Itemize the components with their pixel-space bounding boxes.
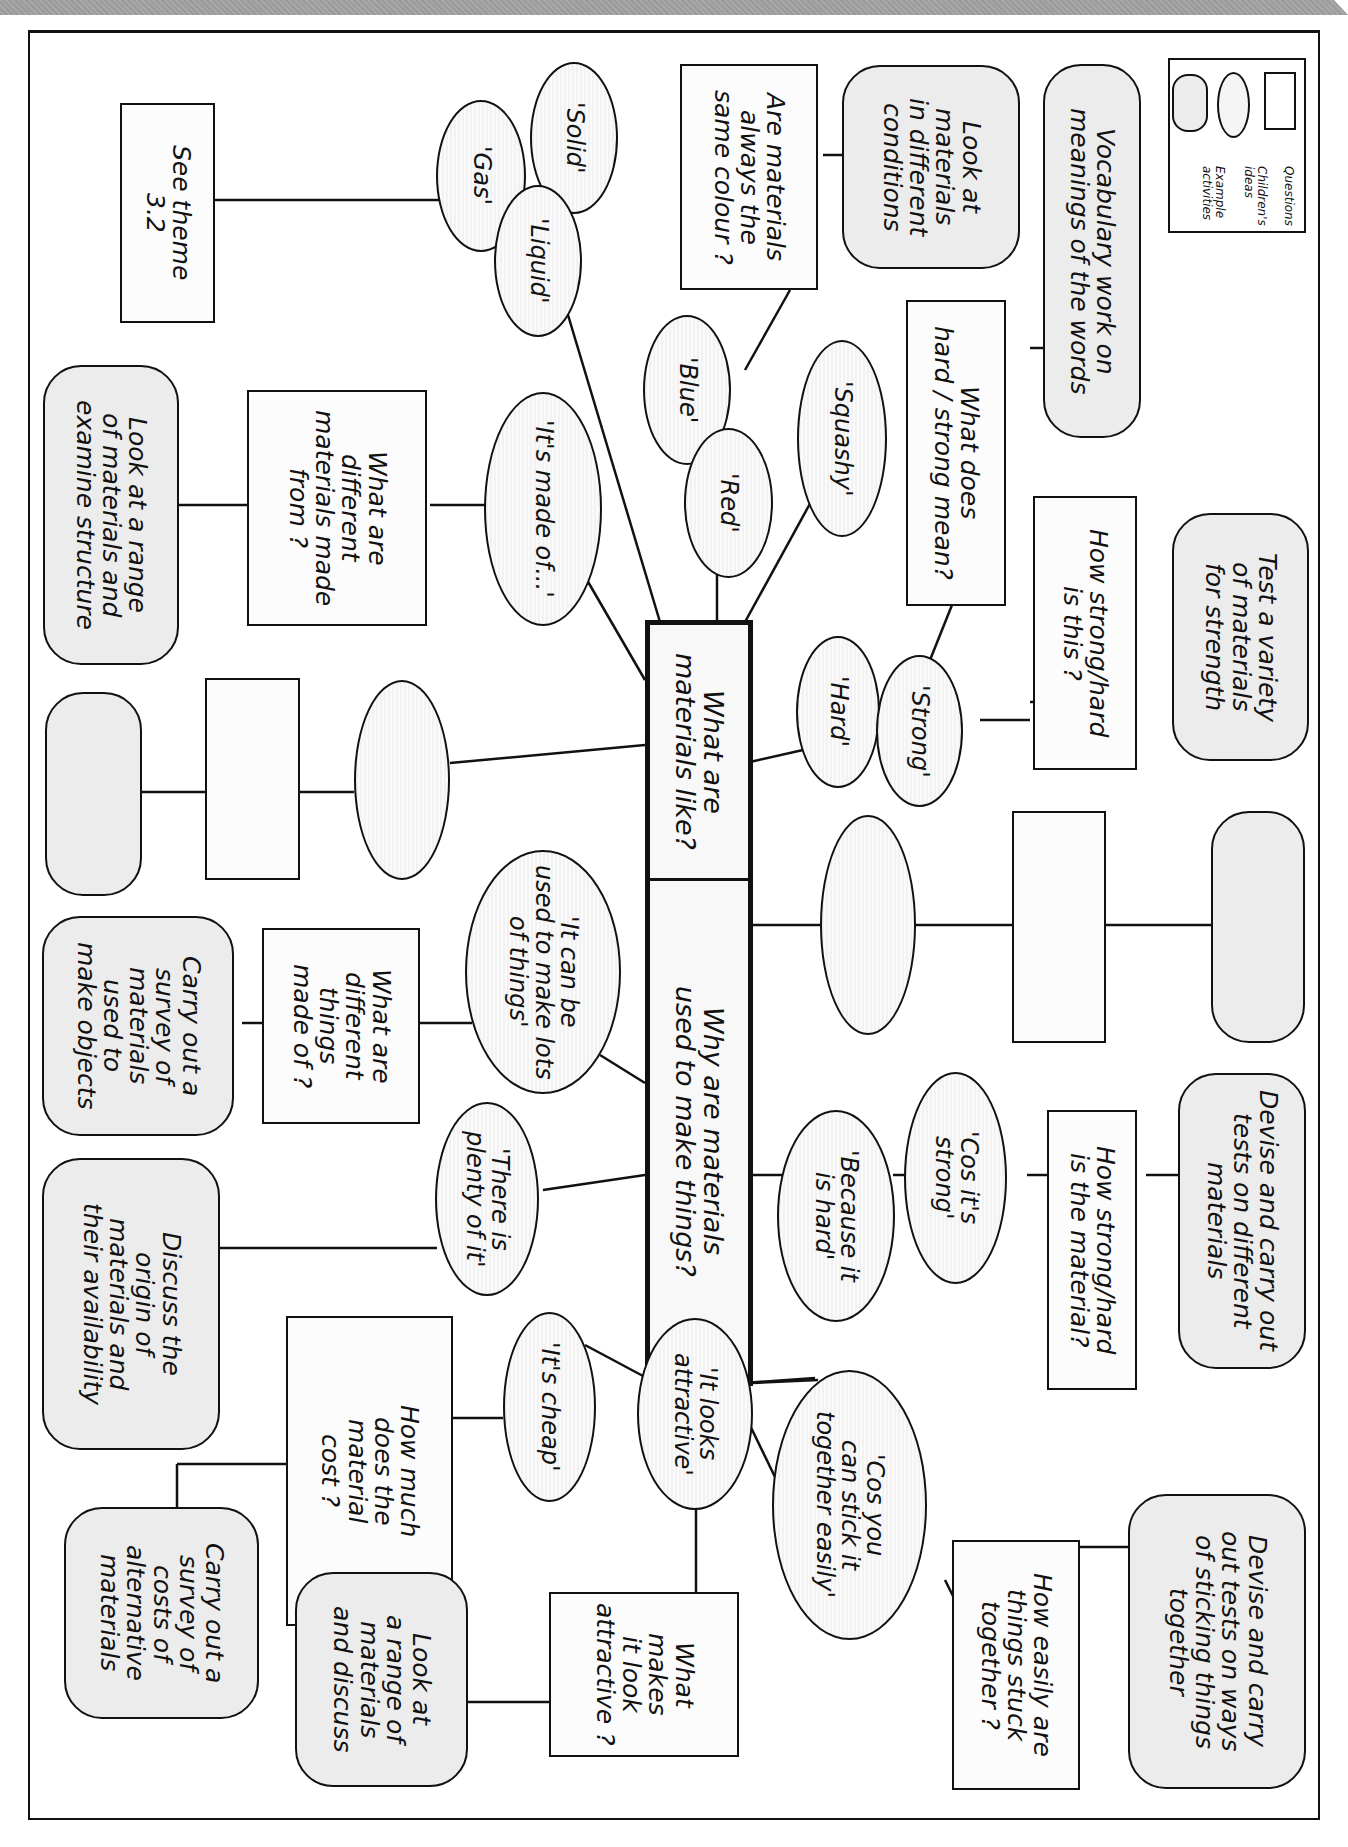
question-label: How much does the material cost ?: [317, 1405, 422, 1537]
legend-activity-label: Example activities: [1198, 166, 1226, 231]
idea-label: 'There is plenty of it': [462, 1131, 512, 1268]
question-materials-made-from: What are different materials made from ?: [247, 390, 427, 626]
activity-tests-materials: Devise and carry out tests on different …: [1178, 1073, 1306, 1369]
legend-activity-swatch: [1172, 74, 1208, 132]
idea-squashy: 'Squashy': [797, 340, 887, 537]
idea-label: 'Strong': [907, 685, 932, 778]
activity-blank-left: [45, 692, 142, 896]
idea-label: 'Solid': [561, 102, 586, 174]
legend-question-swatch: [1264, 72, 1296, 130]
activity-label: Vocabulary work on meanings of the words: [1066, 108, 1119, 394]
activity-label: Devise and carry out tests on different …: [1203, 1090, 1282, 1351]
idea-blank-right: [820, 815, 916, 1035]
activity-label: Look at a range of materials and examine…: [72, 400, 151, 630]
idea-attractive: 'It looks attractive': [637, 1318, 753, 1510]
idea-label: 'Liquid': [525, 218, 550, 304]
question-label: See theme 3.2: [141, 145, 194, 280]
question-label: How strong/hard is this ?: [1059, 529, 1112, 737]
idea-liquid: 'Liquid': [494, 185, 582, 337]
central-node-label: What are materials like?: [671, 653, 728, 850]
question-label: What are different things made of ?: [289, 964, 394, 1088]
question-hard-strong-mean: What does hard / strong mean?: [906, 300, 1006, 606]
idea-cheap: 'It's cheap': [503, 1312, 596, 1502]
activity-label: Look at materials in different condition…: [879, 98, 984, 236]
idea-cos-strong: 'Cos it's strong': [904, 1072, 1007, 1284]
central-node-materials-like: What are materials like?: [645, 620, 753, 883]
idea-strong: 'Strong': [876, 655, 963, 807]
idea-label: 'Cos it's strong': [930, 1131, 980, 1224]
question-blank-left: [205, 678, 300, 880]
legend-idea-swatch: [1217, 72, 1250, 138]
central-node-why-used: Why are materials used to make things?: [645, 878, 753, 1386]
activity-range-discuss: Look at a range of materials and discuss: [295, 1572, 468, 1787]
central-node-label: Why are materials used to make things?: [671, 986, 728, 1277]
idea-because-hard: 'Because it is hard': [777, 1110, 895, 1322]
question-same-colour: Are materials always the same colour ?: [680, 64, 818, 290]
idea-blank-left: [354, 680, 450, 880]
idea-label: 'Gas': [468, 146, 493, 205]
question-label: What makes it look attractive ?: [592, 1603, 697, 1745]
idea-plenty: 'There is plenty of it': [435, 1102, 539, 1296]
activity-label: Look at a range of materials and discuss: [329, 1606, 434, 1752]
question-how-strong-material: How strong/hard is the material?: [1047, 1110, 1137, 1390]
idea-label: 'Blue': [674, 357, 699, 423]
question-stuck-together: How easily are things stuck together ?: [952, 1540, 1080, 1790]
question-makes-attractive: What makes it look attractive ?: [549, 1592, 739, 1757]
activity-different-conditions: Look at materials in different condition…: [842, 65, 1020, 269]
question-label: What does hard / strong mean?: [930, 326, 983, 580]
activity-label: Carry out a survey of materials used to …: [72, 942, 203, 1110]
idea-hard: 'Hard': [796, 636, 880, 788]
idea-stick-together: 'Cos you can stick it together easily': [772, 1370, 927, 1640]
idea-label: 'It's made of...': [530, 420, 555, 598]
idea-lots-of-things: 'It can be used to make lots of things': [465, 850, 621, 1094]
question-label: How easily are things stuck together ?: [977, 1573, 1056, 1757]
idea-label: 'Red': [716, 473, 741, 533]
activity-sticking-tests: Devise and carry out tests on ways of st…: [1128, 1494, 1306, 1789]
question-label: Are materials always the same colour ?: [710, 90, 789, 265]
question-see-theme: See theme 3.2: [120, 103, 215, 323]
idea-label: 'Squashy': [829, 381, 854, 497]
activity-label: Test a variety of materials for strength: [1201, 553, 1280, 722]
idea-label: 'Because it is hard': [811, 1150, 861, 1282]
activity-blank-right: [1211, 811, 1305, 1043]
legend-question-label: Questions: [1282, 166, 1295, 226]
idea-label: 'It's cheap': [537, 1342, 562, 1472]
activity-survey-costs: Carry out a survey of costs of alternati…: [64, 1507, 259, 1719]
idea-label: 'It looks attractive': [670, 1353, 720, 1476]
idea-label: 'Cos you can stick it together easily': [812, 1411, 888, 1598]
idea-made-of: 'It's made of...': [484, 392, 602, 626]
activity-label: Devise and carry out tests on ways of st…: [1165, 1531, 1270, 1752]
legend-idea-label: Children's ideas: [1242, 166, 1268, 231]
activity-label: Carry out a survey of costs of alternati…: [96, 1543, 227, 1683]
question-label: What are different materials made from ?: [285, 410, 390, 606]
activity-survey-objects: Carry out a survey of materials used to …: [42, 916, 234, 1136]
idea-label: 'It can be used to make lots of things': [505, 865, 581, 1080]
activity-vocabulary: Vocabulary work on meanings of the words: [1043, 64, 1141, 438]
idea-red: 'Red': [684, 428, 773, 578]
question-things-made-of: What are different things made of ?: [262, 928, 420, 1124]
activity-origin-availability: Discuss the origin of materials and thei…: [42, 1158, 220, 1450]
activity-test-strength: Test a variety of materials for strength: [1172, 513, 1309, 761]
legend: Questions Children's ideas Example activ…: [1168, 58, 1306, 233]
activity-label: Discuss the origin of materials and thei…: [79, 1203, 184, 1405]
question-label: How strong/hard is the material?: [1066, 1146, 1119, 1354]
question-blank-right: [1012, 811, 1106, 1043]
idea-label: 'Hard': [825, 676, 850, 747]
question-how-strong-this: How strong/hard is this ?: [1033, 496, 1137, 770]
activity-examine-structure: Look at a range of materials and examine…: [43, 365, 179, 665]
